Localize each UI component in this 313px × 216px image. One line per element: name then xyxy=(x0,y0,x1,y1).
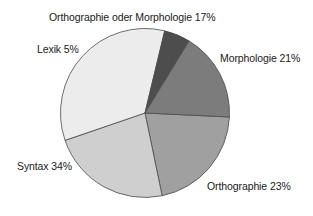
label-orthographie-oder-morphologie: Orthographie oder Morphologie 17% xyxy=(49,11,216,23)
label-syntax: Syntax 34% xyxy=(17,160,72,172)
label-morphologie: Morphologie 21% xyxy=(220,52,300,64)
label-orthographie: Orthographie 23% xyxy=(207,180,291,192)
label-lexik: Lexik 5% xyxy=(37,43,79,55)
pie-chart: Orthographie oder Morphologie 17% Morpho… xyxy=(0,0,313,216)
